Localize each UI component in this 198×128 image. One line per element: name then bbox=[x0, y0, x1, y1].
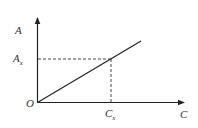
calibration-line bbox=[38, 41, 142, 103]
ax-subscript: x bbox=[19, 59, 24, 67]
calibration-diagram: A Ax O Cx C bbox=[0, 0, 198, 128]
origin-label: O bbox=[26, 97, 34, 109]
x-axis-label: C bbox=[180, 108, 188, 120]
cx-subscript: x bbox=[111, 114, 116, 122]
ax-label: Ax bbox=[12, 52, 24, 67]
cx-label: Cx bbox=[105, 107, 116, 122]
y-axis-label: A bbox=[14, 24, 22, 36]
